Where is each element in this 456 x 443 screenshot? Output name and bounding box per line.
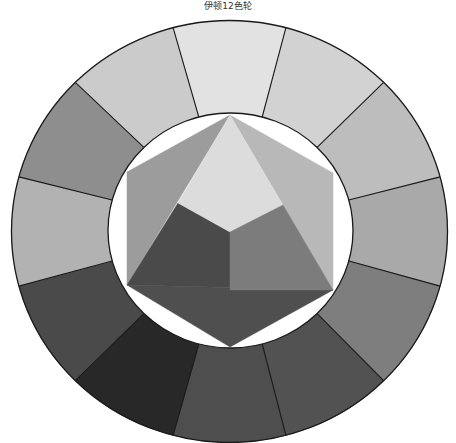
color-wheel: [0, 0, 456, 443]
